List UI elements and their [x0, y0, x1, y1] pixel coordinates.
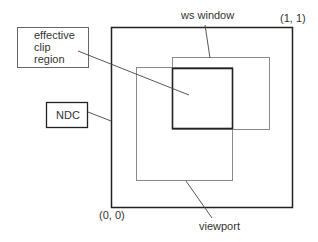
ndc-label: NDC	[56, 109, 80, 121]
viewport-leader-line	[186, 181, 212, 218]
ws-window-leader-line	[205, 25, 210, 58]
viewport-label: viewport	[199, 220, 240, 232]
viewport-rect	[137, 68, 233, 181]
ws-window-label: ws window	[180, 9, 234, 21]
corner-label-top-right: (1, 1)	[280, 12, 306, 24]
effective-clip-rect	[173, 69, 233, 129]
effective-clip-label-line1: effective	[34, 29, 75, 41]
ndc-leader-line	[88, 112, 111, 121]
clip-region-diagram: effective clip region NDC ws window view…	[0, 0, 318, 242]
corner-label-bottom-left: (0, 0)	[99, 209, 125, 221]
effective-clip-label-line2: clip	[34, 41, 51, 53]
effective-clip-label-line3: region	[34, 53, 65, 65]
